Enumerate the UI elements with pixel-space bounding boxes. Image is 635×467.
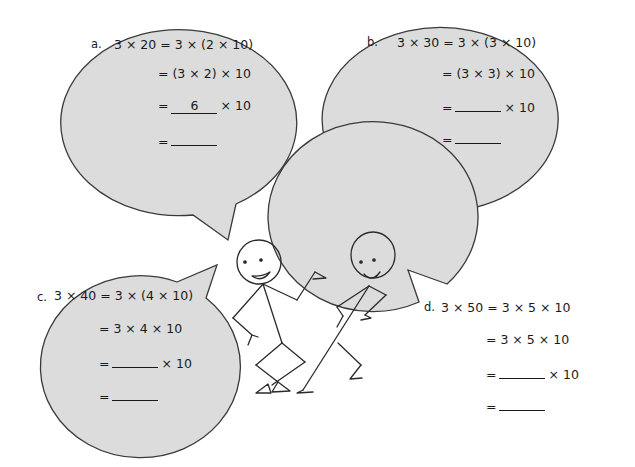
problem-d-line2: = 3 × 5 × 10 <box>486 332 569 347</box>
answer-blank-a-1[interactable]: 6 <box>171 99 217 114</box>
times-ten: × 10 <box>161 356 191 371</box>
equals-sign: = <box>99 389 109 404</box>
problem-c-line4: = <box>99 386 161 404</box>
equals-sign: = <box>486 367 496 382</box>
times-ten: × 10 <box>504 100 534 115</box>
problem-b-line3: =× 10 <box>442 97 535 115</box>
problem-c-line1: 3 × 40 = 3 × (4 × 10) <box>54 288 193 303</box>
answer-blank-b-1[interactable] <box>455 97 501 112</box>
speech-bubble-d <box>268 122 478 312</box>
times-ten: × 10 <box>548 367 578 382</box>
answer-blank-c-1[interactable] <box>112 353 158 368</box>
equals-sign: = <box>442 132 452 147</box>
problem-b-line1: 3 × 30 = 3 × (3 × 10) <box>397 35 536 50</box>
equals-sign: = <box>99 356 109 371</box>
answer-blank-a-2[interactable] <box>171 131 217 146</box>
equals-sign: = <box>158 134 168 149</box>
equals-sign: = <box>158 98 168 113</box>
problem-c-line3: =× 10 <box>99 353 192 371</box>
equals-sign: = <box>442 100 452 115</box>
answer-blank-d-2[interactable] <box>499 396 545 411</box>
problem-a-line1: 3 × 20 = 3 × (2 × 10) <box>114 37 253 52</box>
problem-d-line4: = <box>486 396 548 414</box>
problem-d-line3: =× 10 <box>486 364 579 382</box>
equals-sign: = <box>486 399 496 414</box>
answer-blank-b-2[interactable] <box>455 129 501 144</box>
problem-b-line2: = (3 × 3) × 10 <box>442 66 535 81</box>
problem-b-line4: = <box>442 129 504 147</box>
problem-d-line1: 3 × 50 = 3 × 5 × 10 <box>441 300 570 315</box>
problem-a-line2: = (3 × 2) × 10 <box>158 66 251 81</box>
problem-a-line3: =6× 10 <box>158 98 251 114</box>
problem-a-label: a. <box>91 37 102 52</box>
answer-blank-c-2[interactable] <box>112 386 158 401</box>
times-ten: × 10 <box>220 98 250 113</box>
problem-c-label: c. <box>37 290 47 305</box>
problem-d-label: d. <box>424 300 435 315</box>
problem-b-label: b. <box>367 35 378 50</box>
problem-a-line4: = <box>158 131 220 149</box>
problem-c-line2: = 3 × 4 × 10 <box>99 321 182 336</box>
answer-blank-d-1[interactable] <box>499 364 545 379</box>
